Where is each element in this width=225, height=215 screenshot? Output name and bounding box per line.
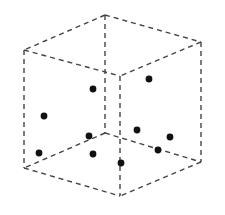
cube-edges (24, 15, 201, 196)
data-point (36, 150, 43, 157)
data-point (146, 76, 153, 83)
data-point (134, 127, 141, 134)
cube-edge-back-bottom-to-left-bottom (24, 133, 105, 168)
data-point (86, 133, 93, 140)
data-point (167, 134, 174, 141)
cube-diagram (0, 0, 225, 215)
cube-edge-back-top-to-left-top (24, 15, 105, 50)
data-point (155, 147, 162, 154)
cube-edge-right-top-to-front-top (120, 42, 201, 76)
data-point (90, 151, 97, 158)
data-point (41, 113, 48, 120)
cube-edge-back-top-to-right-top (105, 15, 201, 42)
data-point (118, 160, 125, 167)
cube-edge-right-bottom-to-front-bottom (120, 162, 201, 196)
data-point (90, 86, 97, 93)
cube-edge-left-bottom-to-front-bottom (24, 168, 120, 196)
cube-diagram-canvas (0, 0, 225, 215)
